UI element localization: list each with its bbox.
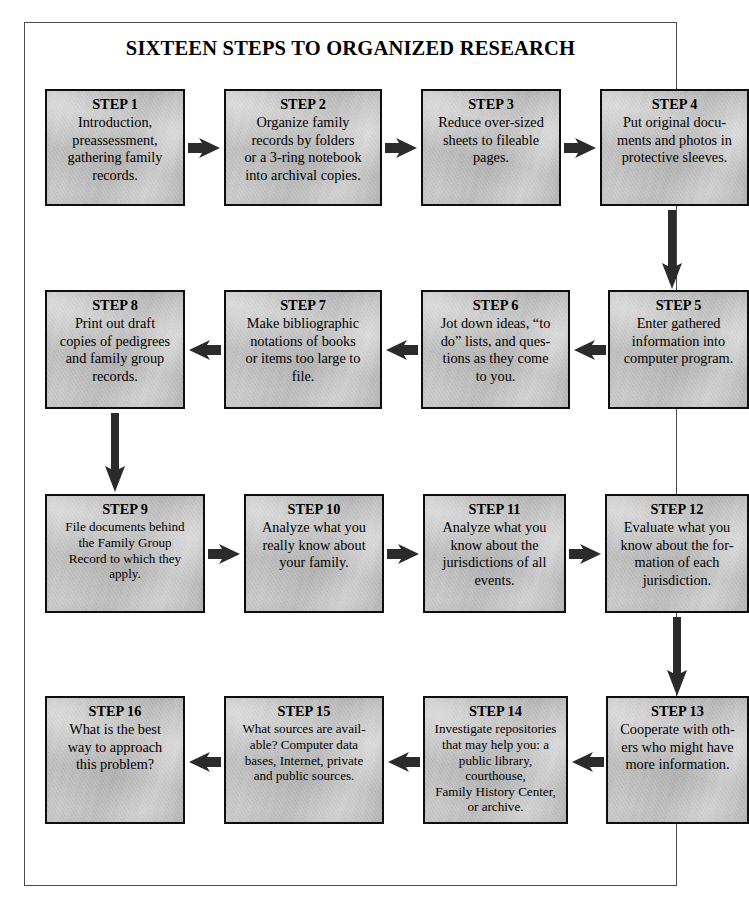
arrow-12-to-13 (664, 617, 690, 697)
step-text-10: Analyze what you really know about your … (250, 519, 378, 571)
arrow-3-to-4 (564, 136, 597, 160)
step-text-6: Jot down ideas, “to do” lists, and ques-… (427, 315, 564, 384)
step-text-9: File documents behind the Family Group R… (51, 519, 199, 581)
page-title: SIXTEEN STEPS TO ORGANIZED RESEARCH (25, 37, 676, 60)
step-label-8: STEP 8 (51, 297, 179, 314)
step-label-10: STEP 10 (250, 501, 378, 518)
step-label-6: STEP 6 (427, 297, 564, 314)
step-text-13: Cooperate with oth- ers who might have m… (612, 721, 743, 773)
step-box-13[interactable]: STEP 13 Cooperate with oth- ers who migh… (606, 696, 749, 824)
step-label-7: STEP 7 (230, 297, 376, 314)
step-box-15[interactable]: STEP 15 What sources are avail- able? Co… (224, 696, 384, 824)
step-box-4[interactable]: STEP 4 Put original docu- ments and phot… (600, 89, 749, 206)
arrow-10-to-11 (387, 542, 420, 566)
step-text-14: Investigate repositories that may help y… (429, 721, 562, 814)
step-label-11: STEP 11 (429, 501, 560, 518)
step-box-8[interactable]: STEP 8 Print out draft copies of pedigre… (45, 290, 185, 409)
step-box-14[interactable]: STEP 14 Investigate repositories that ma… (423, 696, 568, 824)
step-box-7[interactable]: STEP 7 Make bibliographic notations of b… (224, 290, 382, 409)
arrow-7-to-8 (188, 338, 221, 362)
arrow-5-to-6 (573, 338, 606, 362)
step-label-13: STEP 13 (612, 703, 743, 720)
step-box-5[interactable]: STEP 5 Enter gathered information into c… (608, 290, 749, 409)
arrow-9-to-10 (208, 542, 241, 566)
step-box-6[interactable]: STEP 6 Jot down ideas, “to do” lists, an… (421, 290, 570, 409)
step-text-8: Print out draft copies of pedigrees and … (51, 315, 179, 384)
step-label-16: STEP 16 (51, 703, 179, 720)
arrow-6-to-7 (385, 338, 418, 362)
step-text-7: Make bibliographic notations of books or… (230, 315, 376, 384)
step-box-16[interactable]: STEP 16 What is the best way to approach… (45, 696, 185, 824)
step-label-14: STEP 14 (429, 703, 562, 720)
step-label-1: STEP 1 (51, 96, 179, 113)
step-text-5: Enter gathered information into computer… (614, 315, 743, 367)
arrow-13-to-14 (571, 750, 604, 774)
step-label-3: STEP 3 (427, 96, 555, 113)
arrow-11-to-12 (569, 542, 602, 566)
arrow-4-to-5 (659, 210, 685, 290)
step-box-2[interactable]: STEP 2 Organize family records by folder… (224, 89, 382, 206)
step-box-9[interactable]: STEP 9 File documents behind the Family … (45, 494, 205, 613)
step-text-15: What sources are avail- able? Computer d… (230, 721, 378, 783)
step-box-10[interactable]: STEP 10 Analyze what you really know abo… (244, 494, 384, 613)
step-text-16: What is the best way to approach this pr… (51, 721, 179, 773)
step-label-4: STEP 4 (606, 96, 743, 113)
step-label-2: STEP 2 (230, 96, 376, 113)
step-text-12: Evaluate what you know about the for- ma… (611, 519, 743, 588)
step-text-2: Organize family records by folders or a … (230, 114, 376, 183)
arrow-1-to-2 (188, 136, 221, 160)
step-box-1[interactable]: STEP 1 Introduction, preassessment, gath… (45, 89, 185, 206)
step-label-5: STEP 5 (614, 297, 743, 314)
diagram-frame: SIXTEEN STEPS TO ORGANIZED RESEARCH STEP… (24, 22, 677, 886)
step-box-3[interactable]: STEP 3 Reduce over-sized sheets to filea… (421, 89, 561, 206)
arrow-15-to-16 (188, 750, 221, 774)
arrow-2-to-3 (385, 136, 418, 160)
step-label-12: STEP 12 (611, 501, 743, 518)
step-label-15: STEP 15 (230, 703, 378, 720)
arrow-8-to-9 (102, 413, 128, 493)
step-text-11: Analyze what you know about the jurisdic… (429, 519, 560, 588)
step-text-3: Reduce over-sized sheets to fileable pag… (427, 114, 555, 166)
step-label-9: STEP 9 (51, 501, 199, 518)
step-text-4: Put original docu- ments and photos in p… (606, 114, 743, 166)
arrow-14-to-15 (387, 750, 420, 774)
step-box-11[interactable]: STEP 11 Analyze what you know about the … (423, 494, 566, 613)
step-text-1: Introduction, preassessment, gathering f… (51, 114, 179, 183)
step-box-12[interactable]: STEP 12 Evaluate what you know about the… (605, 494, 749, 613)
